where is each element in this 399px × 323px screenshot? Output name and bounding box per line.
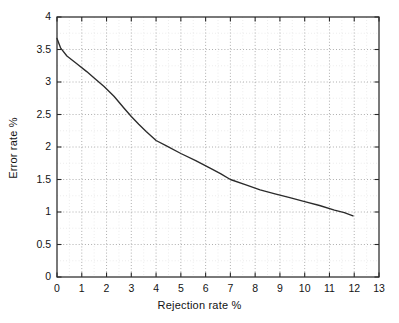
y-tick-label: 0.5	[17, 239, 51, 250]
y-tick-label: 1	[17, 206, 51, 217]
x-tick-label: 9	[268, 283, 292, 294]
y-tick-label: 1.5	[17, 174, 51, 185]
y-tick-label: 3.5	[17, 44, 51, 55]
chart-figure: 00.511.522.533.54 012345678910111213 Rej…	[0, 0, 399, 323]
x-tick-label: 2	[95, 283, 119, 294]
x-tick-label: 11	[317, 283, 341, 294]
x-tick-label: 1	[70, 283, 94, 294]
y-tick-label: 2.5	[17, 109, 51, 120]
series-line-0	[57, 38, 353, 215]
y-tick-label: 2	[17, 141, 51, 152]
y-tick-label: 0	[17, 271, 51, 282]
x-tick-label: 5	[169, 283, 193, 294]
x-tick-label: 13	[367, 283, 391, 294]
x-axis-title: Rejection rate %	[0, 299, 399, 311]
y-tick-label: 4	[17, 11, 51, 22]
x-tick-label: 6	[194, 283, 218, 294]
x-tick-label: 12	[342, 283, 366, 294]
data-series	[57, 38, 353, 215]
y-tick-label: 3	[17, 76, 51, 87]
major-gridlines	[57, 17, 379, 277]
x-tick-label: 10	[293, 283, 317, 294]
x-tick-label: 7	[218, 283, 242, 294]
x-tick-label: 8	[243, 283, 267, 294]
plot-area	[0, 0, 399, 323]
x-tick-label: 3	[119, 283, 143, 294]
x-tick-label: 4	[144, 283, 168, 294]
y-axis-title: Error rate %	[7, 93, 19, 203]
x-tick-label: 0	[45, 283, 69, 294]
